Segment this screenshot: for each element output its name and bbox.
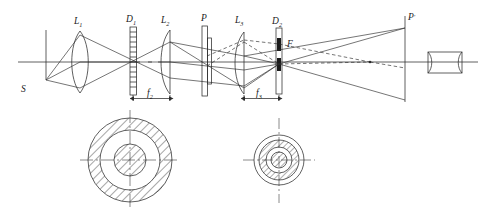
label-lens-3: L3: [234, 15, 243, 27]
lens-3: [235, 32, 244, 94]
label-image-plane: P': [407, 12, 416, 22]
ray-dashed-focus-dot: [369, 61, 372, 64]
ray-solid-bundle: [46, 28, 405, 100]
label-lens-1: L1: [73, 16, 82, 28]
label-filter: F: [286, 39, 293, 49]
label-lens-2: L2: [160, 15, 169, 27]
label-plate-p: P: [200, 13, 207, 23]
label-grating-1: D1: [125, 14, 136, 26]
grating-2-slits: [277, 38, 281, 71]
figure-canvas: S L1 D1 L2 P L3 D2 F P' f2 f3: [0, 0, 481, 208]
label-grating-2: D2: [271, 16, 282, 28]
optical-ray-diagram: S L1 D1 L2 P L3 D2 F P' f2 f3: [0, 0, 481, 208]
label-focal-2: f2: [147, 88, 153, 100]
label-focal-3: f3: [256, 88, 262, 100]
label-source: S: [21, 84, 26, 94]
ray-dashed-bundle: [207, 40, 405, 68]
plate-p: [202, 26, 212, 96]
eyepiece: [428, 52, 462, 73]
